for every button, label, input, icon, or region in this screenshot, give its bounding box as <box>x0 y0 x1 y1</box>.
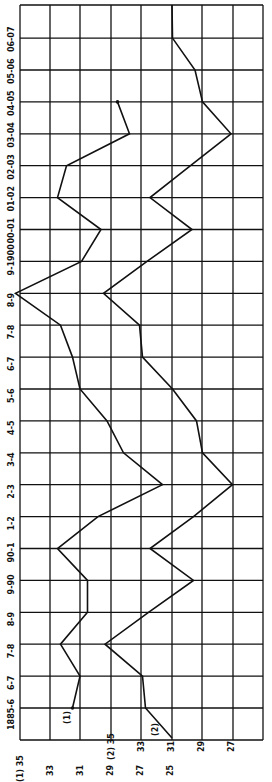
series-markers <box>71 100 120 710</box>
category-label: 4-5 <box>7 420 16 435</box>
category-label: 03-04 <box>7 122 16 148</box>
category-label: 05-06 <box>7 58 16 84</box>
series-endpoint-marker <box>116 100 120 104</box>
category-label: 90-1 <box>7 542 16 562</box>
axis-2-tick: 33 <box>137 741 146 752</box>
category-label: 04-05 <box>7 90 16 116</box>
axis-1-tick: 29 <box>106 764 115 776</box>
category-label: 7-8 <box>7 324 16 339</box>
category-label: 1-2 <box>7 516 16 530</box>
category-label: 00-01 <box>7 217 16 243</box>
category-label: 8-9 <box>7 292 16 307</box>
category-axis-labels: 1885-66-77-88-99-9090-11-22-33-44-55-66-… <box>7 27 16 730</box>
axis-1-tick: 25 <box>166 764 175 776</box>
category-label: 7-8 <box>7 643 16 658</box>
category-label: 5-6 <box>7 388 16 403</box>
category-label: 3-4 <box>7 452 16 467</box>
axis-2-tick: 29 <box>197 740 206 752</box>
category-label: 6-7 <box>7 676 16 690</box>
category-label: 6-7 <box>7 357 16 371</box>
axis-2-tick: (2) 35 <box>107 733 116 760</box>
series-endpoint-marker <box>71 706 75 710</box>
category-label: 1885-6 <box>7 698 16 730</box>
axis-1-tick: 27 <box>136 765 145 776</box>
axis-1-tick: (1) 35 <box>16 755 25 782</box>
category-label: 06-07 <box>7 27 16 53</box>
chart-grid <box>20 5 263 740</box>
line-chart: 1885-66-77-88-99-9090-11-22-33-44-55-66-… <box>0 0 272 782</box>
axis-1-tick: 31 <box>76 764 85 776</box>
series-2-label: (2) <box>151 723 160 736</box>
category-label: 9-90 <box>7 574 16 594</box>
category-label: 2-3 <box>7 484 16 498</box>
series-1-label: (1) <box>63 711 72 724</box>
category-label: 8-9 <box>7 611 16 626</box>
axis-2-tick: 27 <box>227 741 236 752</box>
category-label: 9-1900 <box>7 244 16 276</box>
axis-1-tick: 33 <box>46 765 55 776</box>
category-label: 02-03 <box>7 154 16 180</box>
category-label: 01-02 <box>7 186 16 212</box>
axis-2-tick: 31 <box>167 740 176 752</box>
value-axis-1: (1) 353331292725 <box>16 755 175 782</box>
